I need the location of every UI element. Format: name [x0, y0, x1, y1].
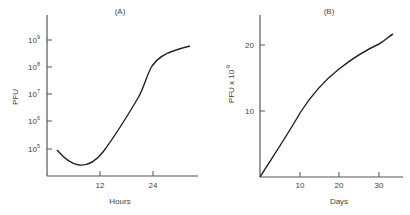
y-tick-label: 109: [28, 34, 40, 45]
y-tick-label: 106: [28, 115, 40, 126]
panel-a-y-tick-labels: 109 108 107 106 105: [28, 34, 40, 154]
panel-a-curve: [57, 46, 190, 165]
panel-a-x-label: Hours: [109, 197, 130, 206]
panel-b-y-ticks: [260, 45, 265, 111]
panel-a-y-ticks: [47, 40, 52, 149]
x-tick-label: 24: [149, 181, 158, 190]
panel-a-x-ticks: [100, 171, 153, 176]
panel-b-x-ticks: [300, 172, 379, 177]
y-tick-label: 10: [245, 107, 254, 116]
y-tick-label: 108: [28, 61, 40, 72]
y-tick-label: 105: [28, 143, 40, 154]
panel-b-title: (B): [324, 7, 335, 16]
panel-a-y-label: PFU: [11, 89, 20, 105]
panel-a: (A) 109 108 107 106 105 12 24 Hours PFU: [11, 7, 198, 206]
panel-b-x-label: Days: [330, 197, 348, 206]
panel-b: (B) 20 10 10 20 30 Days PFU x 10-9: [225, 7, 403, 206]
figure: (A) 109 108 107 106 105 12 24 Hours PFU: [0, 0, 410, 215]
x-tick-label: 30: [375, 181, 384, 190]
x-tick-label: 12: [96, 181, 105, 190]
panel-b-curve: [260, 34, 393, 177]
y-tick-label: 20: [245, 41, 254, 50]
x-tick-label: 10: [296, 181, 305, 190]
panel-b-y-label: PFU x 10-9: [225, 65, 236, 103]
x-tick-label: 20: [335, 181, 344, 190]
panel-a-title: (A): [115, 7, 126, 16]
y-tick-label: 107: [28, 88, 40, 99]
